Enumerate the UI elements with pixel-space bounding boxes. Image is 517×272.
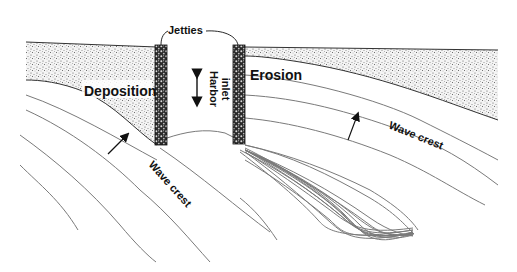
right-jetty bbox=[233, 45, 245, 144]
erosion-label: Erosion bbox=[250, 67, 302, 83]
svg-text:inlet: inlet bbox=[220, 78, 232, 101]
wave-direction-arrow-right bbox=[348, 116, 357, 140]
harbor-inlet-label: Harbor inlet bbox=[208, 71, 232, 108]
svg-text:Harbor: Harbor bbox=[208, 71, 220, 108]
wave-crest-label-right: Wave crest bbox=[387, 119, 445, 152]
coastal-jetty-diagram: Jetties Harbor inlet Deposition Erosion … bbox=[0, 0, 517, 272]
jetties-label: Jetties bbox=[168, 24, 203, 36]
wave-direction-arrow-left bbox=[108, 136, 126, 154]
jetties-leader-left bbox=[161, 31, 168, 45]
erosion-sand-area bbox=[245, 47, 498, 120]
deposition-label: Deposition bbox=[84, 83, 156, 99]
jetties-leader-right bbox=[206, 31, 238, 45]
left-jetty bbox=[155, 45, 167, 145]
